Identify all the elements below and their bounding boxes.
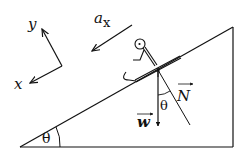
skier-figure <box>124 39 181 82</box>
normal-force-label: N <box>176 87 191 105</box>
force-angle-label: θ <box>160 98 168 113</box>
coordinate-axes <box>30 29 62 83</box>
weight-force-label: w <box>137 113 151 131</box>
acceleration-arrow <box>92 25 132 51</box>
x-axis-label: x <box>14 75 23 93</box>
y-axis-label: y <box>27 15 37 33</box>
incline-angle-label: θ <box>42 130 50 146</box>
force-angle-arc <box>158 91 170 95</box>
acceleration-label: ax <box>94 9 111 30</box>
incline-angle-arc <box>56 127 60 147</box>
x-axis-arrow <box>30 66 62 83</box>
incline-diagram: θ y x ax θ N w <box>0 0 242 153</box>
y-axis-arrow <box>42 29 62 66</box>
incline-triangle <box>20 27 233 147</box>
